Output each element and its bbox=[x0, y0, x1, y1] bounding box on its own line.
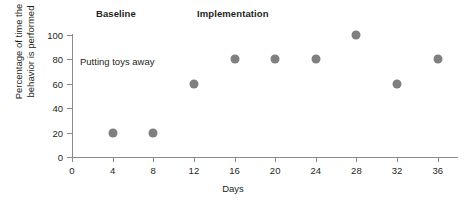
scatter-chart-figure: Baseline Implementation Percentage of ti… bbox=[0, 0, 475, 213]
data-point bbox=[271, 55, 280, 64]
x-tick-20 bbox=[275, 157, 276, 162]
x-tick-label-28: 28 bbox=[351, 165, 362, 176]
data-point bbox=[352, 31, 361, 40]
x-tick-24 bbox=[316, 157, 317, 162]
x-axis-line bbox=[72, 157, 458, 158]
x-tick-12 bbox=[194, 157, 195, 162]
x-tick-label-8: 8 bbox=[151, 165, 156, 176]
y-tick-label-20: 20 bbox=[13, 127, 63, 138]
x-tick-label-24: 24 bbox=[310, 165, 321, 176]
series-annotation-label: Putting toys away bbox=[80, 56, 154, 67]
x-tick-8 bbox=[153, 157, 154, 162]
y-tick-label-40: 40 bbox=[13, 103, 63, 114]
data-point bbox=[149, 128, 158, 137]
x-tick-label-0: 0 bbox=[69, 165, 74, 176]
phase-label-baseline: Baseline bbox=[96, 8, 136, 19]
plot-area bbox=[72, 35, 458, 157]
x-axis-title-text: Days bbox=[222, 183, 244, 194]
data-point bbox=[311, 55, 320, 64]
x-tick-label-20: 20 bbox=[270, 165, 281, 176]
x-tick-label-36: 36 bbox=[432, 165, 443, 176]
x-tick-4 bbox=[113, 157, 114, 162]
y-tick-label-80: 80 bbox=[13, 54, 63, 65]
data-point bbox=[433, 55, 442, 64]
x-tick-16 bbox=[235, 157, 236, 162]
x-tick-label-4: 4 bbox=[110, 165, 115, 176]
x-tick-label-16: 16 bbox=[229, 165, 240, 176]
x-tick-0 bbox=[72, 157, 73, 162]
x-tick-36 bbox=[438, 157, 439, 162]
y-tick-label-60: 60 bbox=[13, 78, 63, 89]
x-tick-label-32: 32 bbox=[392, 165, 403, 176]
data-point bbox=[230, 55, 239, 64]
x-tick-32 bbox=[397, 157, 398, 162]
data-point bbox=[108, 128, 117, 137]
data-point bbox=[393, 79, 402, 88]
y-tick-label-100: 100 bbox=[13, 30, 63, 41]
x-tick-28 bbox=[356, 157, 357, 162]
x-tick-label-12: 12 bbox=[189, 165, 200, 176]
y-tick-label-0: 0 bbox=[13, 152, 63, 163]
phase-label-implementation: Implementation bbox=[197, 8, 269, 19]
x-axis-title: Days bbox=[0, 183, 475, 194]
data-point bbox=[189, 79, 198, 88]
